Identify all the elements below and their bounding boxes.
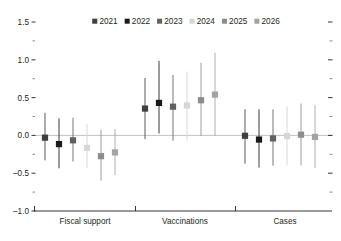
data-point-2022-fiscal-support[interactable] — [56, 141, 62, 147]
data-point-2026-fiscal-support[interactable] — [112, 149, 118, 155]
legend-label-2023: 2023 — [164, 17, 183, 26]
data-point-2026-cases[interactable] — [312, 134, 318, 140]
x-axis-category-label-cases: Cases — [273, 217, 296, 226]
data-point-2022-vaccinations[interactable] — [156, 100, 162, 106]
data-point-2024-cases[interactable] — [284, 133, 290, 139]
legend-label-2024: 2024 — [197, 17, 216, 26]
legend-label-2026: 2026 — [262, 17, 281, 26]
data-point-2026-vaccinations[interactable] — [212, 91, 218, 97]
legend-swatch-2021 — [92, 19, 97, 24]
y-axis-tick-label: 1.5 — [18, 18, 30, 27]
data-point-2022-cases[interactable] — [256, 136, 262, 142]
chart-container: 1.51.00.50.0–0.5–1.0Fiscal supportVaccin… — [0, 0, 341, 241]
legend-swatch-2026 — [254, 19, 259, 24]
data-point-2023-fiscal-support[interactable] — [70, 137, 76, 143]
legend-swatch-2025 — [222, 19, 227, 24]
data-point-2025-vaccinations[interactable] — [198, 97, 204, 103]
data-point-2021-vaccinations[interactable] — [142, 105, 148, 111]
data-point-2024-fiscal-support[interactable] — [84, 145, 90, 151]
legend-label-2021: 2021 — [99, 17, 118, 26]
y-axis-tick-label: –0.5 — [13, 169, 29, 178]
data-point-2023-cases[interactable] — [270, 135, 276, 141]
legend-label-2022: 2022 — [132, 17, 151, 26]
data-point-2025-fiscal-support[interactable] — [98, 153, 104, 159]
legend-label-2025: 2025 — [229, 17, 248, 26]
y-axis-tick-label: 0.0 — [18, 131, 30, 140]
data-point-2021-fiscal-support[interactable] — [42, 135, 48, 141]
y-axis-tick-label: 0.5 — [18, 94, 30, 103]
legend-swatch-2023 — [157, 19, 162, 24]
y-axis-tick-label: 1.0 — [18, 56, 30, 65]
data-point-2024-vaccinations[interactable] — [184, 102, 190, 108]
legend-swatch-2024 — [190, 19, 195, 24]
data-point-2025-cases[interactable] — [298, 132, 304, 138]
y-axis-tick-label: –1.0 — [13, 207, 29, 216]
x-axis-category-label-fiscal-support: Fiscal support — [60, 217, 112, 226]
error-bar-chart: 1.51.00.50.0–0.5–1.0Fiscal supportVaccin… — [0, 0, 341, 241]
x-axis-category-label-vaccinations: Vaccinations — [162, 217, 208, 226]
data-point-2023-vaccinations[interactable] — [170, 104, 176, 110]
data-point-2021-cases[interactable] — [242, 133, 248, 139]
legend-swatch-2022 — [125, 19, 130, 24]
